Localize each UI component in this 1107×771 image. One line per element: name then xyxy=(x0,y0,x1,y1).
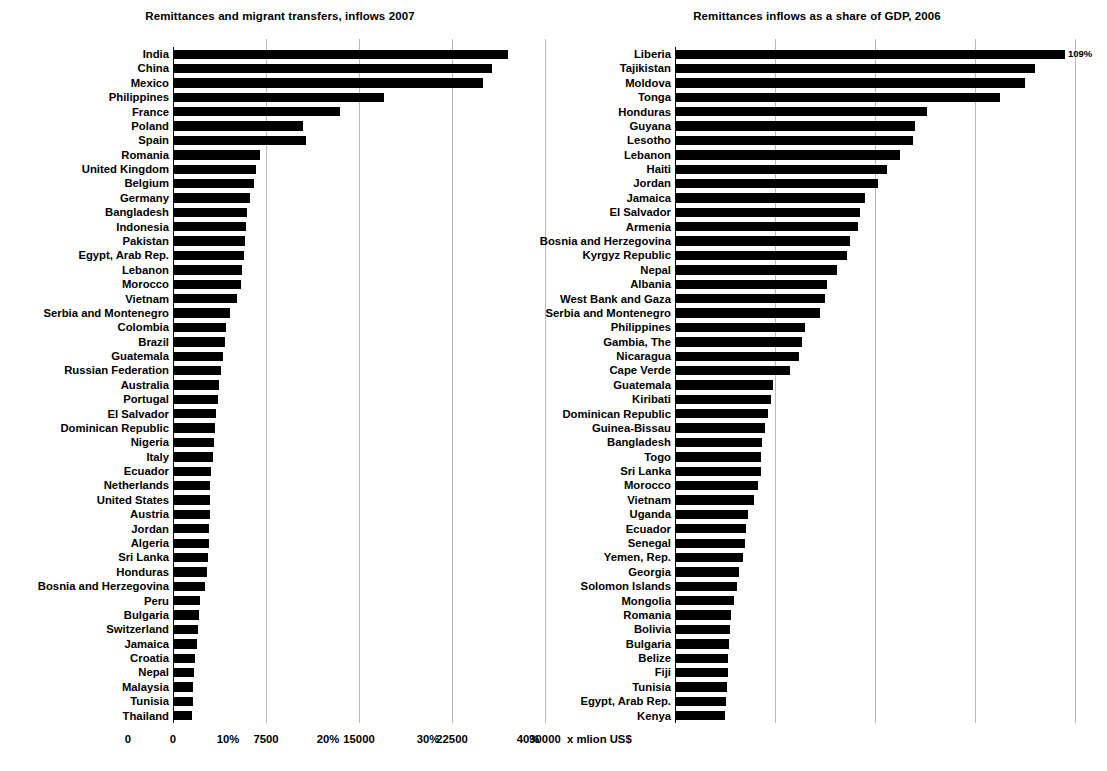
category-label: Vietnam xyxy=(627,493,671,507)
category-label: Belize xyxy=(638,651,671,665)
chart-row: Bangladesh xyxy=(173,205,545,219)
bar xyxy=(675,539,745,548)
category-label: Albania xyxy=(630,277,671,291)
bar xyxy=(173,423,215,432)
category-label: Guyana xyxy=(630,119,671,133)
chart-row: Italy xyxy=(173,450,545,464)
chart-row: Serbia and Montenegro xyxy=(675,306,1075,320)
chart-row: Algeria xyxy=(173,536,545,550)
bar xyxy=(173,495,210,504)
axis-tick-label: 40% xyxy=(517,733,540,745)
category-label: Sri Lanka xyxy=(620,464,671,478)
bar xyxy=(675,64,1035,73)
chart-row: Haiti xyxy=(675,162,1075,176)
chart-row: Romania xyxy=(675,608,1075,622)
category-label: Algeria xyxy=(131,536,169,550)
chart-row: Tonga xyxy=(675,90,1075,104)
chart-row: Uganda xyxy=(675,507,1075,521)
chart-row: Lebanon xyxy=(173,263,545,277)
chart-row: Netherlands xyxy=(173,478,545,492)
chart-row: Guatemala xyxy=(173,349,545,363)
category-label: Georgia xyxy=(628,565,671,579)
category-label: Peru xyxy=(144,594,169,608)
chart-row: Peru xyxy=(173,594,545,608)
bar xyxy=(675,553,743,562)
category-label: Nepal xyxy=(138,665,169,679)
category-label: Kenya xyxy=(637,709,671,723)
category-label: Gambia, The xyxy=(603,335,671,349)
bar xyxy=(173,93,384,102)
category-label: Dominican Republic xyxy=(60,421,169,435)
chart-row: Honduras xyxy=(173,565,545,579)
chart-row: Bosnia and Herzegovina xyxy=(675,234,1075,248)
chart-row: Guyana xyxy=(675,119,1075,133)
axis-tick-label: 7500 xyxy=(253,733,278,745)
chart-row: Vietnam xyxy=(675,493,1075,507)
chart-row: United Kingdom xyxy=(173,162,545,176)
category-label: Philippines xyxy=(109,90,169,104)
category-label: Morocco xyxy=(122,277,169,291)
bar xyxy=(173,236,245,245)
bar xyxy=(173,510,210,519)
category-label: Italy xyxy=(146,450,169,464)
category-label: United States xyxy=(97,493,169,507)
bar xyxy=(675,236,850,245)
bar xyxy=(173,682,193,691)
category-label: Armenia xyxy=(626,220,671,234)
bar xyxy=(173,193,250,202)
category-label: Sri Lanka xyxy=(118,550,169,564)
chart-row: Liberia109% xyxy=(675,47,1075,61)
bar xyxy=(173,64,492,73)
chart-row: Cape Verde xyxy=(675,363,1075,377)
chart-row: Switzerland xyxy=(173,622,545,636)
bar xyxy=(173,121,303,130)
category-label: Switzerland xyxy=(106,622,169,636)
category-label: Egypt, Arab Rep. xyxy=(78,248,169,262)
chart-row: Mongolia xyxy=(675,594,1075,608)
bar xyxy=(173,539,209,548)
bar xyxy=(173,697,193,706)
bar xyxy=(675,582,737,591)
bar xyxy=(675,136,913,145)
chart-row: Honduras xyxy=(675,105,1075,119)
category-label: Kyrgyz Republic xyxy=(582,248,671,262)
category-label: Liberia xyxy=(634,47,671,61)
bar-value-label: 109% xyxy=(1068,47,1092,61)
chart-row: Russian Federation xyxy=(173,363,545,377)
chart-row: Senegal xyxy=(675,536,1075,550)
chart-row: Kenya xyxy=(675,709,1075,723)
chart-row: Croatia xyxy=(173,651,545,665)
chart-row: Australia xyxy=(173,378,545,392)
category-label: Morocco xyxy=(624,478,671,492)
chart-row: Jordan xyxy=(675,176,1075,190)
bar xyxy=(675,251,847,260)
chart-row: India xyxy=(173,47,545,61)
chart-row: Kyrgyz Republic xyxy=(675,248,1075,262)
category-label: Romania xyxy=(121,148,169,162)
category-label: Honduras xyxy=(116,565,169,579)
category-label: Bosnia and Herzegovina xyxy=(38,579,169,593)
bar xyxy=(173,668,194,677)
chart-row: Brazil xyxy=(173,335,545,349)
bar xyxy=(675,682,727,691)
category-label: Jamaica xyxy=(626,191,671,205)
chart-row: Ecuador xyxy=(675,522,1075,536)
category-label: Jordan xyxy=(633,176,671,190)
category-label: Jamaica xyxy=(124,637,169,651)
chart-page: Remittances and migrant transfers, inflo… xyxy=(0,0,1107,771)
bar xyxy=(675,323,805,332)
bar xyxy=(675,193,865,202)
chart-row: Sri Lanka xyxy=(675,464,1075,478)
right-chart-title: Remittances inflows as a share of GDP, 2… xyxy=(547,10,1087,22)
chart-row: Malaysia xyxy=(173,680,545,694)
chart-row: Bulgaria xyxy=(173,608,545,622)
bar xyxy=(173,136,306,145)
chart-row: Gambia, The xyxy=(675,335,1075,349)
bar xyxy=(173,625,198,634)
category-label: Vietnam xyxy=(125,292,169,306)
category-label: Guinea-Bissau xyxy=(592,421,671,435)
bar xyxy=(675,179,878,188)
bar xyxy=(173,395,218,404)
chart-row: Egypt, Arab Rep. xyxy=(675,694,1075,708)
category-label: Bulgaria xyxy=(626,637,671,651)
